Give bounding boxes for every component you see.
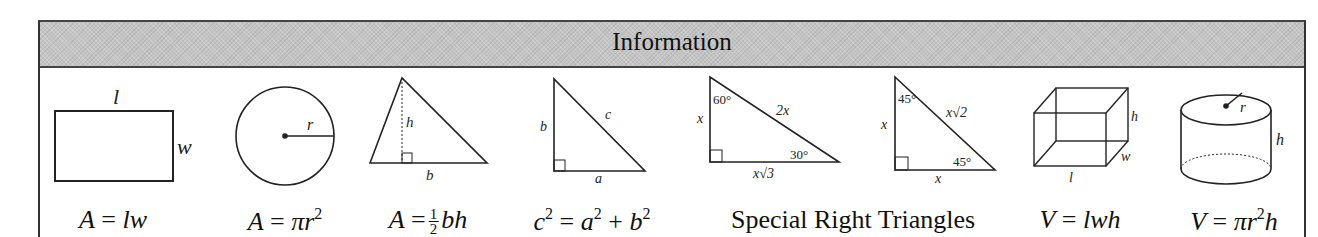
rt-label-a: a	[595, 171, 602, 186]
t4545-label-45-bottom: 45°	[953, 154, 971, 169]
formula-circle-area: A = πr2	[248, 205, 323, 237]
triangle-30-60-90-figure	[710, 77, 839, 162]
t3060-label-x: x	[696, 111, 704, 126]
rectangle-figure	[55, 111, 173, 181]
cyl-label-r: r	[1240, 99, 1246, 115]
t4545-label-45-top: 45°	[898, 91, 916, 106]
cylinder-figure	[1181, 93, 1271, 184]
prism-label-h: h	[1131, 109, 1138, 124]
circle-figure	[236, 87, 334, 185]
t3060-label-60: 60°	[713, 92, 731, 107]
circle-label-r: r	[307, 116, 314, 133]
special-right-triangles-caption: Special Right Triangles	[731, 205, 975, 235]
prism-label-w: w	[1121, 149, 1131, 164]
formula-pythagorean: c2 = a2 + b2	[534, 205, 651, 237]
formula-triangle-area: A =12bh	[389, 205, 468, 236]
t4545-label-x-bottom: x	[934, 171, 942, 186]
t4545-label-x-left: x	[880, 117, 888, 132]
formula-rectangle-area: A = lw	[79, 205, 147, 235]
right-triangle-figure	[554, 79, 645, 171]
t3060-label-2x: 2x	[776, 103, 790, 118]
triangle-label-b: b	[426, 167, 434, 183]
rt-label-b: b	[540, 119, 547, 134]
triangle-label-h: h	[406, 114, 414, 130]
t3060-label-x-root3: x√3	[752, 166, 774, 181]
rect-label-l: l	[113, 84, 119, 109]
formula-prism-volume: V = lwh	[1039, 205, 1120, 235]
prism-label-l: l	[1069, 170, 1073, 185]
rectangular-prism-figure	[1034, 88, 1128, 166]
formula-cylinder-volume: V = πr2h	[1190, 205, 1278, 237]
triangle-figure	[370, 78, 487, 163]
t3060-label-30: 30°	[790, 147, 808, 162]
cyl-label-h: h	[1276, 131, 1284, 148]
rt-label-c: c	[605, 107, 612, 122]
figures-canvas: l w r h b b c a x 60° 2x 30° x√3 x 45° x…	[0, 0, 1318, 237]
rect-label-w: w	[177, 134, 192, 159]
t4545-label-x-root2: x√2	[945, 105, 967, 120]
